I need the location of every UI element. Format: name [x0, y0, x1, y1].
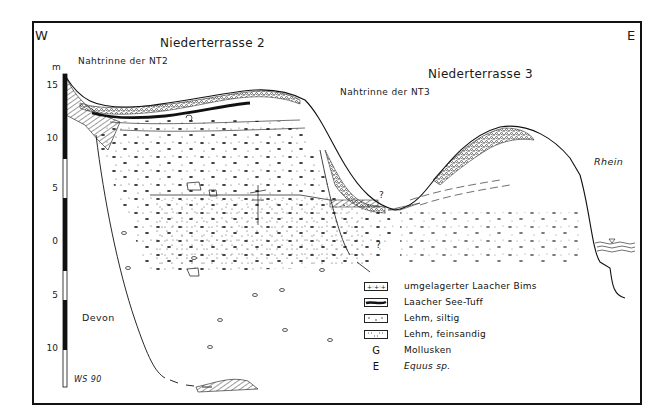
- legend-item-silty-loam: Lehm, siltig: [364, 312, 460, 324]
- sandy-loam-swatch-icon: [364, 330, 388, 339]
- legend-item-sandy-loam: Lehm, feinsandig: [364, 328, 486, 340]
- scale-tick-5-down: 5: [42, 291, 58, 300]
- legend-label: umgelagerter Laacher Bims: [404, 281, 537, 291]
- legend-label: Laacher See-Tuff: [404, 297, 483, 307]
- legend-item-tuff: Laacher See-Tuff: [364, 296, 483, 308]
- scale-tick-5-up: 5: [42, 184, 58, 193]
- legend-label: Mollusken: [404, 345, 452, 355]
- uncertain-marker-2: ?: [376, 241, 381, 250]
- nt3-pumice-cap: [433, 128, 534, 185]
- east-label: E: [627, 29, 635, 42]
- mollusk-icon: G: [364, 345, 388, 356]
- nt3-title: Niederterrasse 3: [428, 68, 533, 80]
- scale-tick-10-up: 10: [42, 134, 58, 143]
- legend-item-mollusks: G Mollusken: [364, 344, 452, 356]
- legend-label: Lehm, siltig: [404, 313, 460, 323]
- scale-tick-0: 0: [42, 237, 58, 246]
- author-signature: WS 90: [74, 376, 102, 384]
- depth-scale-bar: [63, 74, 67, 387]
- nt2-title: Niederterrasse 2: [160, 37, 265, 49]
- legend-item-equus: E Equus sp.: [364, 360, 450, 372]
- legend-label: Equus sp.: [404, 361, 450, 371]
- west-label: W: [35, 29, 48, 42]
- bedrock-label: Devon: [82, 313, 115, 323]
- equus-icon: E: [364, 361, 388, 372]
- river-water-lines: [595, 239, 635, 252]
- pumice-swatch-icon: +·+·+: [364, 282, 388, 291]
- tuff-swatch-icon: [364, 298, 388, 307]
- legend-label: Lehm, feinsandig: [404, 329, 486, 339]
- scale-tick-15: 15: [42, 81, 58, 90]
- scale-tick-10-down: 10: [42, 344, 58, 353]
- scale-unit: m: [52, 63, 61, 72]
- nt2-channel-label: Nahtrinne der NT2: [78, 57, 168, 66]
- uncertain-marker-1: ?: [379, 191, 384, 200]
- nt2-pumice-band: [80, 91, 300, 114]
- legend-item-pumice: +·+·+ umgelagerter Laacher Bims: [364, 280, 537, 292]
- silty-loam-swatch-icon: [364, 314, 388, 323]
- bedrock-lens: [196, 379, 258, 392]
- river-label: Rhein: [594, 157, 623, 167]
- nt3-channel-label: Nahtrinne der NT3: [340, 88, 430, 97]
- svg-text:+·+·+: +·+·+: [367, 283, 386, 290]
